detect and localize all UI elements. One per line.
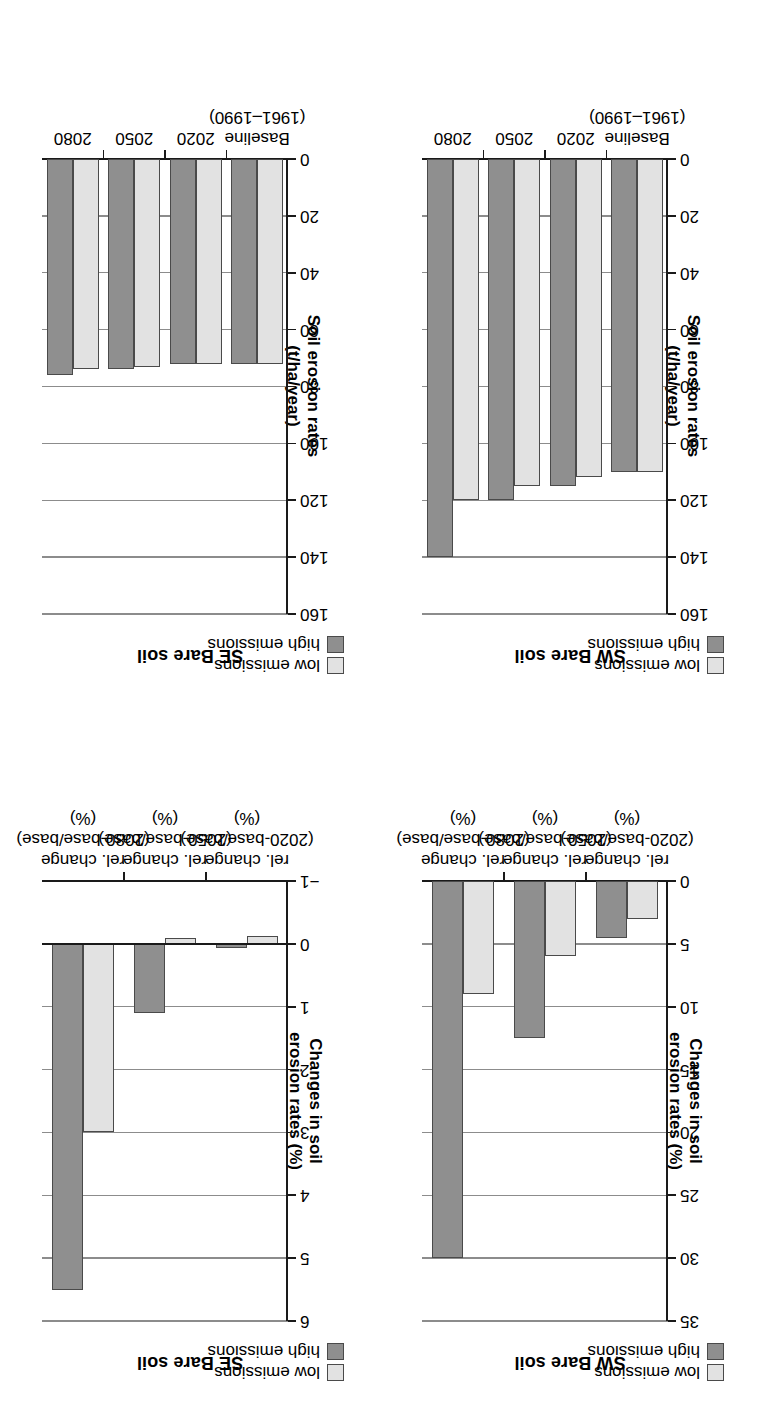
gridline [42,1320,288,1321]
y-axis-tick [668,499,676,501]
bar[interactable] [196,159,222,364]
y-axis-tick-label: 4 [300,1187,309,1204]
legend-item-label: low emissions [594,1364,700,1381]
legend-item[interactable]: low emissions [208,657,344,674]
legend-item-label: low emissions [594,657,700,674]
legend-item[interactable]: low emissions [588,657,724,674]
bar[interactable] [257,159,283,364]
legend-item[interactable]: high emissions [588,1343,724,1360]
y-axis-tick-label: 80 [680,378,699,395]
y-axis-tick-label: 20 [300,207,319,224]
bar[interactable] [514,881,545,1038]
plot-area: 020406080100120140160Baseline(1961–1990)… [42,159,288,614]
legend-item[interactable]: low emissions [588,1364,724,1381]
y-axis-tick [288,1257,296,1259]
bar[interactable] [52,944,83,1290]
bar[interactable] [576,159,602,478]
y-axis-tick [668,1006,676,1008]
x-axis-tick [544,150,546,159]
x-axis-category-label: 2020 [177,128,215,149]
bar[interactable] [108,159,134,369]
legend-item[interactable]: high emissions [588,636,724,653]
y-axis-tick-label: 10 [680,998,699,1015]
x-axis-category-label-line: Baseline [209,128,305,149]
y-axis-tick-label: 80 [300,378,319,395]
x-axis-category-label-line: (2080-base/base) [16,829,149,850]
y-axis-tick [288,329,296,331]
gridline [422,556,668,557]
x-axis-category-label-line: 2020 [177,128,215,149]
legend-item[interactable]: high emissions [208,1343,344,1360]
y-axis-title-line1: Changes in soil [305,1032,325,1170]
legend-swatch-icon [707,636,724,653]
legend-swatch-icon [707,1364,724,1381]
x-axis-tick [585,872,587,881]
y-axis-tick [668,556,676,558]
plot-area: 020406080100120140160Baseline(1961–1990)… [422,159,668,614]
y-axis-tick [668,272,676,274]
y-axis-tick-label: 6 [300,1313,309,1330]
bar[interactable] [514,159,540,486]
y-axis-tick-label: 60 [680,321,699,338]
y-axis-tick [668,1132,676,1134]
bar[interactable] [47,159,73,375]
y-axis-tick [288,272,296,274]
bar[interactable] [488,159,514,500]
y-axis-title: Changes in soilerosion rates (%) [665,1032,705,1170]
legend-swatch-icon [327,636,344,653]
y-axis-tick [668,329,676,331]
x-axis-category-label-line: (1961–1990) [209,107,305,128]
y-axis-line [666,881,668,1321]
legend-swatch-icon [327,657,344,674]
legend-item[interactable]: low emissions [208,1364,344,1381]
legend: low emissionshigh emissions [208,1343,344,1381]
legend-item-label: high emissions [208,1343,320,1360]
x-axis-tick [205,872,207,881]
bar[interactable] [231,159,257,364]
bar[interactable] [134,159,160,367]
bar[interactable] [427,159,453,557]
y-axis-tick [668,158,676,160]
bar[interactable] [611,159,637,472]
x-axis-tick [123,872,125,881]
y-axis-tick-label: 40 [300,264,319,281]
gridline [42,556,288,557]
bar[interactable] [550,159,576,486]
bar[interactable] [453,159,479,500]
bar[interactable] [596,881,627,938]
y-axis-tick [288,880,296,882]
y-axis-tick-label: 140 [680,549,708,566]
y-axis-title: Changes in soilerosion rates (%) [285,1032,325,1170]
x-axis-category-label: 2080 [54,128,92,149]
legend: low emissionshigh emissions [588,636,724,674]
bar[interactable] [463,881,494,994]
y-axis-tick [668,943,676,945]
y-axis-tick-label: 100 [300,435,328,452]
bar[interactable] [73,159,99,369]
x-axis-category-label-line: 2050 [115,128,153,149]
y-axis-tick-label: 15 [680,1061,699,1078]
bar[interactable] [134,944,165,1013]
bar[interactable] [545,881,576,956]
bar[interactable] [627,881,658,919]
gridline [422,613,668,614]
y-axis-tick-label: 25 [680,1187,699,1204]
y-axis-tick [668,1257,676,1259]
y-axis-tick [288,556,296,558]
legend-item[interactable]: high emissions [208,636,344,653]
y-axis-tick [288,1132,296,1134]
bar[interactable] [170,159,196,364]
gridline [422,1320,668,1321]
y-axis-tick [668,613,676,615]
plot-area: −10123456rel. change(2020-base/base)(%)r… [42,881,288,1321]
bar[interactable] [637,159,663,472]
bar[interactable] [83,944,114,1133]
legend: low emissionshigh emissions [588,1343,724,1381]
y-axis-tick-label: 5 [300,1250,309,1267]
y-axis-tick [668,215,676,217]
bar[interactable] [432,881,463,1258]
x-axis-category-label: rel. change(2080-base/base)(%) [16,808,149,871]
legend-swatch-icon [707,657,724,674]
x-axis-category-label: 2020 [557,128,595,149]
y-axis-tick-label: 160 [300,606,328,623]
